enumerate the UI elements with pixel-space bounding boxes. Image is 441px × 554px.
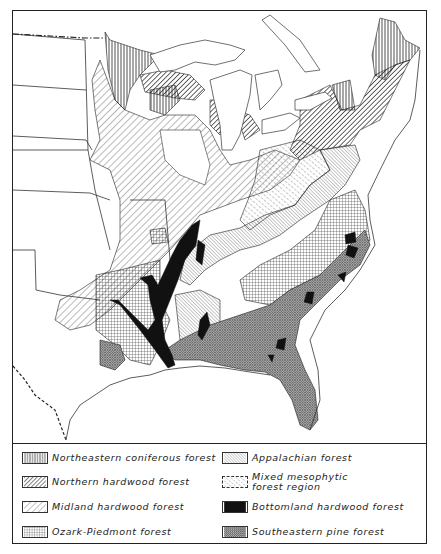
legend-label: Ozark-Piedmont forest [52, 527, 171, 537]
forest-regions-map [0, 0, 441, 440]
grid-swatch-icon [22, 526, 48, 538]
legend-label: Appalachian forest [252, 453, 352, 463]
legend-label: Midland hardwood forest [52, 502, 184, 512]
mexico-border [13, 366, 66, 440]
crosshatch-swatch-icon [222, 526, 248, 538]
dashed-diagonal-swatch-icon [222, 476, 248, 488]
dense-diagonal-swatch-icon [22, 476, 48, 488]
back-diagonal-swatch-icon [222, 452, 248, 464]
vertical-lines-swatch-icon [22, 452, 48, 464]
legend-item-northern-hardwood: Northern hardwood forest [22, 475, 190, 489]
legend-item-southeastern-pine: Southeastern pine forest [222, 525, 384, 539]
legend-label: Mixed mesophytic forest region [252, 472, 372, 492]
canada-border [13, 34, 105, 38]
legend-item-appalachian: Appalachian forest [222, 451, 352, 465]
legend-label: Northern hardwood forest [52, 477, 190, 487]
legend-item-bottomland-hardwood: Bottomland hardwood forest [222, 500, 404, 514]
legend-label: Southeastern pine forest [252, 527, 384, 537]
legend-label: Bottomland hardwood forest [252, 502, 404, 512]
legend-item-midland-hardwood: Midland hardwood forest [22, 500, 184, 514]
legend-item-northeastern-coniferous: Northeastern coniferous forest [22, 451, 216, 465]
legend-item-mixed-mesophytic: Mixed mesophytic forest region [222, 472, 372, 492]
legend-item-ozark-piedmont: Ozark-Piedmont forest [22, 525, 171, 539]
solid-black-swatch-icon [222, 501, 248, 513]
legend-label: Northeastern coniferous forest [52, 453, 216, 463]
legend-divider [12, 443, 427, 444]
sparse-diagonal-swatch-icon [22, 501, 48, 513]
legend: Northeastern coniferous forest Northern … [22, 450, 422, 542]
gulf-coastline [66, 366, 270, 440]
